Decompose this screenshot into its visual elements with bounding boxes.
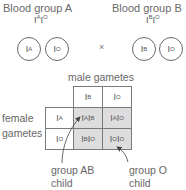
arrow-ab-icon xyxy=(62,117,80,163)
annotation-ab-line2: child xyxy=(51,176,73,190)
annotation-o-line2: child xyxy=(129,176,151,190)
annotation-arrows xyxy=(0,0,186,190)
arrow-o-icon xyxy=(117,147,128,162)
